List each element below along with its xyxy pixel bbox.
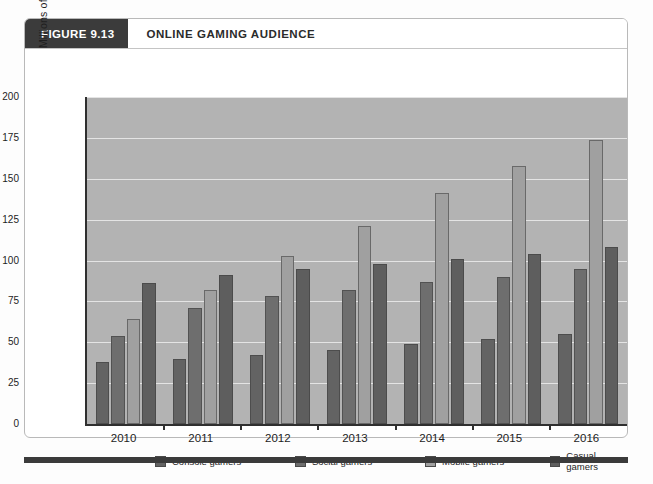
x-tick-label-2016: 2016 bbox=[548, 432, 625, 444]
bottom-rule bbox=[24, 457, 628, 463]
bar-casual-gamers-2016 bbox=[605, 247, 619, 424]
y-tick-label: 150 bbox=[0, 173, 19, 184]
bar-social-gamers-2012 bbox=[265, 296, 279, 424]
bar-casual-gamers-2015 bbox=[528, 254, 542, 424]
bar-console-gamers-2011 bbox=[173, 359, 187, 424]
bar-mobile-gamers-2013 bbox=[358, 226, 372, 424]
bar-mobile-gamers-2014 bbox=[435, 193, 449, 424]
figure-header: FIGURE 9.13 ONLINE GAMING AUDIENCE bbox=[25, 19, 627, 49]
bar-console-gamers-2015 bbox=[481, 339, 495, 424]
bar-group bbox=[473, 97, 550, 424]
bar-social-gamers-2013 bbox=[342, 290, 356, 424]
y-tick-label: 50 bbox=[0, 336, 19, 347]
bar-social-gamers-2014 bbox=[420, 282, 434, 424]
bar-group bbox=[318, 97, 395, 424]
y-tick-label: 0 bbox=[0, 418, 19, 429]
y-tick-label: 175 bbox=[0, 132, 19, 143]
bar-casual-gamers-2012 bbox=[296, 269, 310, 424]
bar-mobile-gamers-2011 bbox=[204, 290, 218, 424]
x-tick-label-2013: 2013 bbox=[316, 432, 393, 444]
bar-casual-gamers-2011 bbox=[219, 275, 233, 424]
y-tick-label: 25 bbox=[0, 377, 19, 388]
bar-mobile-gamers-2016 bbox=[589, 140, 603, 424]
y-axis-label-text: Millions of gamers bbox=[37, 0, 49, 109]
x-tick-label-2015: 2015 bbox=[471, 432, 548, 444]
bar-console-gamers-2014 bbox=[404, 344, 418, 424]
figure-panel: FIGURE 9.13 ONLINE GAMING AUDIENCE Milli… bbox=[24, 18, 628, 438]
bar-group bbox=[396, 97, 473, 424]
x-tick-label-2010: 2010 bbox=[85, 432, 162, 444]
bar-social-gamers-2011 bbox=[188, 308, 202, 424]
bar-group bbox=[164, 97, 241, 424]
bar-console-gamers-2016 bbox=[558, 334, 572, 424]
y-tick-label: 75 bbox=[0, 295, 19, 306]
x-tick-label-2014: 2014 bbox=[394, 432, 471, 444]
bar-console-gamers-2013 bbox=[327, 350, 341, 424]
x-tick-mark bbox=[549, 424, 551, 430]
bar-groups bbox=[87, 97, 627, 424]
x-tick-mark bbox=[395, 424, 397, 430]
x-tick-label-2011: 2011 bbox=[162, 432, 239, 444]
x-tick-mark bbox=[163, 424, 165, 430]
bar-console-gamers-2010 bbox=[96, 362, 110, 424]
bar-console-gamers-2012 bbox=[250, 355, 264, 424]
bar-group bbox=[87, 97, 164, 424]
bar-group bbox=[550, 97, 627, 424]
chart-area: Millions of gamers 025507510012515017520… bbox=[25, 49, 627, 440]
bar-casual-gamers-2013 bbox=[373, 264, 387, 424]
x-tick-label-2012: 2012 bbox=[239, 432, 316, 444]
bar-casual-gamers-2014 bbox=[451, 259, 465, 424]
y-tick-label: 200 bbox=[0, 91, 19, 102]
figure-title: ONLINE GAMING AUDIENCE bbox=[128, 19, 627, 48]
bar-mobile-gamers-2012 bbox=[281, 256, 295, 424]
x-tick-mark bbox=[240, 424, 242, 430]
y-tick-label: 100 bbox=[0, 255, 19, 266]
figure-page: FIGURE 9.13 ONLINE GAMING AUDIENCE Milli… bbox=[0, 0, 653, 484]
bar-social-gamers-2015 bbox=[497, 277, 511, 424]
bar-casual-gamers-2010 bbox=[142, 283, 156, 424]
bar-mobile-gamers-2010 bbox=[127, 319, 141, 424]
plot-area bbox=[85, 97, 627, 426]
y-axis-label: Millions of gamers bbox=[37, 0, 49, 109]
bar-mobile-gamers-2015 bbox=[512, 166, 526, 424]
bar-social-gamers-2016 bbox=[574, 269, 588, 424]
bar-social-gamers-2010 bbox=[111, 336, 125, 424]
y-tick-label: 125 bbox=[0, 214, 19, 225]
x-tick-mark bbox=[317, 424, 319, 430]
x-tick-mark bbox=[472, 424, 474, 430]
x-axis-labels: 2010201120122013201420152016 bbox=[85, 432, 625, 450]
bar-group bbox=[241, 97, 318, 424]
